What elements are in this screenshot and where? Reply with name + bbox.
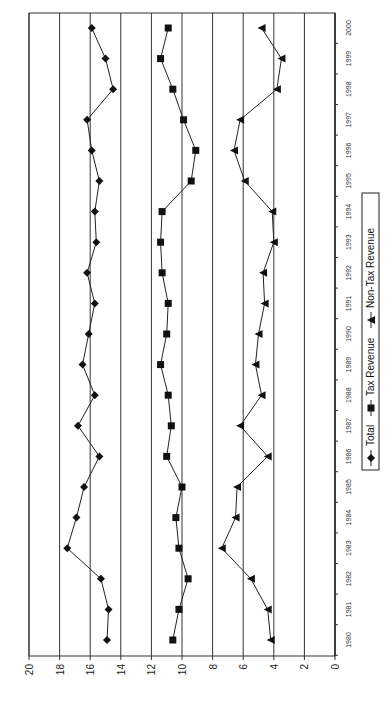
square-marker-icon bbox=[157, 55, 164, 62]
year-tick-label: 1986 bbox=[345, 449, 352, 465]
year-tick-label: 1982 bbox=[345, 571, 352, 587]
year-tick-label: 1995 bbox=[345, 173, 352, 189]
square-marker-icon bbox=[165, 300, 172, 307]
value-tick-label: 20 bbox=[24, 664, 35, 676]
square-marker-icon bbox=[192, 147, 199, 154]
year-tick-label: 1980 bbox=[345, 632, 352, 648]
year-tick-label: 1998 bbox=[345, 81, 352, 97]
year-tick-label: 1987 bbox=[345, 418, 352, 434]
year-tick-label: 1984 bbox=[345, 510, 352, 526]
year-tick-label: 1983 bbox=[345, 540, 352, 556]
year-tick-label: 1996 bbox=[345, 143, 352, 159]
square-marker-icon bbox=[188, 178, 195, 185]
value-axis-ticks: 02468101214161820 bbox=[24, 656, 341, 675]
square-marker-icon bbox=[159, 269, 166, 276]
year-tick-label: 1990 bbox=[345, 326, 352, 342]
year-tick-label: 1991 bbox=[345, 296, 352, 312]
square-marker-icon bbox=[180, 116, 187, 123]
value-tick-label: 14 bbox=[116, 664, 127, 676]
value-tick-label: 2 bbox=[299, 664, 310, 670]
value-tick-label: 6 bbox=[238, 664, 249, 670]
square-marker-icon bbox=[185, 575, 192, 582]
year-tick-label: 1989 bbox=[345, 357, 352, 373]
revenue-line-chart: 02468101214161820 1980198119821983198419… bbox=[0, 0, 388, 707]
square-marker-icon bbox=[165, 392, 172, 399]
value-tick-label: 10 bbox=[177, 664, 188, 676]
value-tick-label: 12 bbox=[146, 664, 157, 676]
year-tick-label: 1981 bbox=[345, 602, 352, 618]
square-marker-icon bbox=[175, 545, 182, 552]
legend-label-total: Total bbox=[365, 425, 376, 446]
legend-label-non-tax-revenue: Non-Tax Revenue bbox=[365, 228, 376, 308]
year-tick-label: 1992 bbox=[345, 265, 352, 281]
year-tick-label: 1993 bbox=[345, 234, 352, 250]
year-tick-label: 1988 bbox=[345, 387, 352, 403]
square-marker-icon bbox=[163, 453, 170, 460]
square-marker-icon bbox=[169, 637, 176, 644]
square-marker-icon bbox=[179, 484, 186, 491]
square-marker-icon bbox=[159, 208, 166, 215]
value-tick-label: 8 bbox=[208, 664, 219, 670]
year-tick-label: 1994 bbox=[345, 204, 352, 220]
year-tick-label: 1999 bbox=[345, 51, 352, 67]
square-marker-icon bbox=[169, 86, 176, 93]
square-marker-icon bbox=[157, 239, 164, 246]
legend-label-tax-revenue: Tax Revenue bbox=[365, 337, 376, 396]
legend: Total Tax Revenue Non-Tax Revenue bbox=[362, 193, 379, 470]
square-marker-icon bbox=[172, 514, 179, 521]
value-tick-label: 4 bbox=[269, 664, 280, 670]
year-tick-label: 2000 bbox=[345, 20, 352, 36]
value-tick-label: 18 bbox=[55, 664, 66, 676]
square-marker-icon bbox=[165, 25, 172, 32]
square-marker-icon bbox=[368, 405, 375, 412]
square-marker-icon bbox=[163, 331, 170, 338]
square-marker-icon bbox=[157, 361, 164, 368]
square-marker-icon bbox=[175, 606, 182, 613]
value-tick-label: 16 bbox=[85, 664, 96, 676]
year-tick-label: 1985 bbox=[345, 479, 352, 495]
square-marker-icon bbox=[168, 422, 175, 429]
year-axis-ticks: 1980198119821983198419851986198719881989… bbox=[335, 13, 352, 656]
value-tick-label: 0 bbox=[330, 664, 341, 670]
year-tick-label: 1997 bbox=[345, 112, 352, 128]
